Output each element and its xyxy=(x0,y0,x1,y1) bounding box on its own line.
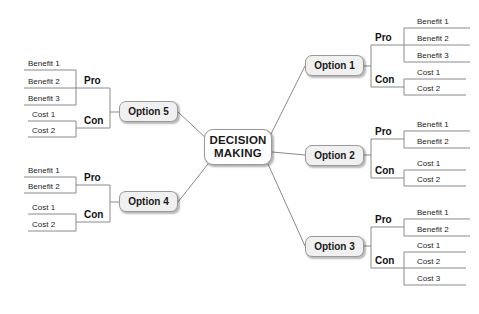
option1-pro-item-1[interactable]: Benefit 1 xyxy=(417,16,449,27)
option5-con-item-2[interactable]: Cost 2 xyxy=(32,125,55,136)
option3-con-item-3[interactable]: Cost 3 xyxy=(417,273,440,284)
option5-pro-item-2[interactable]: Benefit 2 xyxy=(28,76,60,87)
option-node-4[interactable]: Option 4 xyxy=(119,191,178,212)
option1-pro-item-2[interactable]: Benefit 2 xyxy=(417,33,449,44)
option1-pro-label[interactable]: Pro xyxy=(375,32,392,43)
option2-con-item-1[interactable]: Cost 1 xyxy=(417,158,440,169)
option5-pro-item-1[interactable]: Benefit 1 xyxy=(28,58,60,69)
option-node-5[interactable]: Option 5 xyxy=(119,101,178,122)
option4-pro-label[interactable]: Pro xyxy=(84,172,101,183)
edge-center-option1 xyxy=(268,66,305,140)
option-node-1[interactable]: Option 1 xyxy=(305,55,364,76)
option3-con-label[interactable]: Con xyxy=(375,255,394,266)
mindmap-canvas: DECISION MAKING Option 1 Option 2 Option… xyxy=(0,0,479,314)
center-node[interactable]: DECISION MAKING xyxy=(204,129,272,165)
option-node-3[interactable]: Option 3 xyxy=(305,236,364,257)
option5-pro-label[interactable]: Pro xyxy=(84,75,101,86)
option3-pro-label[interactable]: Pro xyxy=(375,214,392,225)
option4-con-label[interactable]: Con xyxy=(84,209,103,220)
edge-center-option4 xyxy=(178,164,208,202)
center-label-line2: MAKING xyxy=(214,147,262,159)
option1-con-label[interactable]: Con xyxy=(375,74,394,85)
option4-con-item-2[interactable]: Cost 2 xyxy=(32,219,55,230)
option1-pro-item-3[interactable]: Benefit 3 xyxy=(417,50,449,61)
option-node-2[interactable]: Option 2 xyxy=(305,145,364,166)
edge-center-option3 xyxy=(268,164,305,246)
option2-pro-item-2[interactable]: Benefit 2 xyxy=(417,136,449,147)
option1-con-item-2[interactable]: Cost 2 xyxy=(417,83,440,94)
option2-con-item-2[interactable]: Cost 2 xyxy=(417,174,440,185)
center-label-line1: DECISION xyxy=(209,134,266,146)
option5-pro-item-3[interactable]: Benefit 3 xyxy=(28,93,60,104)
option3-con-item-2[interactable]: Cost 2 xyxy=(417,256,440,267)
option4-pro-item-1[interactable]: Benefit 1 xyxy=(28,165,60,176)
option3-pro-item-2[interactable]: Benefit 2 xyxy=(417,224,449,235)
option2-pro-item-1[interactable]: Benefit 1 xyxy=(417,119,449,130)
option4-pro-item-2[interactable]: Benefit 2 xyxy=(28,181,60,192)
option5-con-item-1[interactable]: Cost 1 xyxy=(32,109,55,120)
option4-con-item-1[interactable]: Cost 1 xyxy=(32,202,55,213)
option2-con-label[interactable]: Con xyxy=(375,165,394,176)
option3-con-item-1[interactable]: Cost 1 xyxy=(417,240,440,251)
option5-con-label[interactable]: Con xyxy=(84,115,103,126)
option2-pro-label[interactable]: Pro xyxy=(375,126,392,137)
option3-pro-item-1[interactable]: Benefit 1 xyxy=(417,207,449,218)
edge-center-option2 xyxy=(272,152,305,155)
option1-con-item-1[interactable]: Cost 1 xyxy=(417,67,440,78)
